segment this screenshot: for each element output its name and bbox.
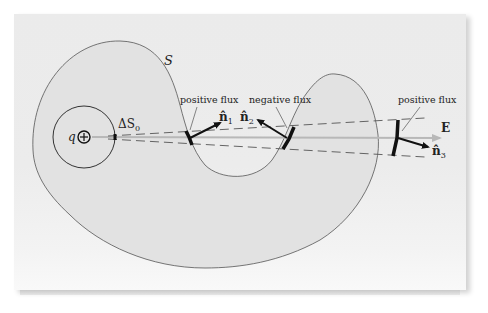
normal-arrow-n2 (258, 120, 287, 138)
patch-s0-text: ΔS (118, 117, 135, 131)
normal-arrow-n3 (398, 138, 428, 147)
annotation-negative-flux: negative flux (249, 94, 312, 105)
n3-symbol: n̂ (432, 144, 441, 158)
surface-s (33, 41, 379, 268)
normal-arrow-n1 (190, 123, 220, 138)
normal-label-n3: n̂3 (432, 144, 446, 160)
annotation-positive-flux-3: positive flux (398, 94, 457, 105)
normal-label-n1: n̂1 (219, 110, 233, 126)
annotation-positive-flux-1: positive flux (180, 94, 239, 105)
field-label-e: E (441, 121, 450, 135)
n3-subscript: 3 (441, 151, 446, 160)
gauss-law-diagram: S q ΔS0 positive flux negative flux posi… (0, 0, 488, 313)
surface-label: S (164, 53, 173, 68)
n2-subscript: 2 (249, 117, 254, 126)
n1-symbol: n̂ (219, 110, 228, 124)
leader-flux2 (276, 107, 287, 128)
n2-symbol: n̂ (240, 110, 249, 124)
n1-subscript: 1 (228, 117, 233, 126)
field-line-e (92, 137, 440, 138)
charge-label: q (68, 130, 76, 144)
patch-s0-subscript: 0 (135, 124, 140, 133)
leader-flux1 (190, 107, 197, 130)
normal-label-n2: n̂2 (240, 110, 254, 126)
